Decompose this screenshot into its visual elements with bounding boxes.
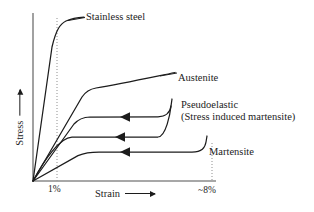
right-arrow-icon-strain (125, 193, 155, 194)
y-axis-label: Stress (14, 88, 25, 148)
up-arrow-icon-stress (19, 90, 20, 116)
curve-label-pseudoelastic: Pseudoelastic (181, 99, 238, 110)
x-axis-label-text: Strain (95, 188, 120, 199)
leader-line-group (68, 18, 177, 77)
stress-strain-diagram: Stainless steel Austenite Pseudoelastic … (0, 0, 314, 212)
axis-group (33, 13, 216, 181)
plot-canvas (0, 0, 314, 212)
x-tick-label-8-percent: ~8% (198, 185, 216, 195)
curve-austenite (33, 73, 175, 182)
x-tick-label-1-percent: 1% (48, 184, 61, 194)
curve-label-martensite: Martensite (209, 146, 254, 157)
right-arrow-icon-pseudoelastic-loading (120, 112, 130, 122)
left-arrow-icon-pseudoelastic-unloading (115, 132, 125, 142)
right-arrow-icon-martensite (120, 147, 130, 157)
curve-label-stainless-steel: Stainless steel (86, 11, 145, 22)
curve-label-austenite: Austenite (178, 72, 218, 83)
curve-martensite (33, 136, 207, 181)
direction-arrow-group (115, 112, 130, 157)
y-axis-label-text: Stress (14, 121, 25, 146)
curve-label-stress-induced-martensite: (Stress induced martensite) (181, 111, 295, 122)
x-axis-label: Strain (95, 188, 155, 199)
